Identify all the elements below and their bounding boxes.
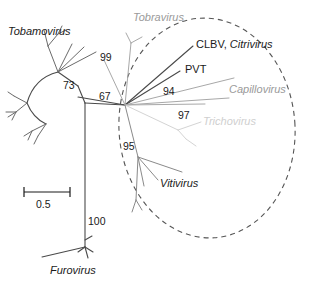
bootstrap-value-73: 73 bbox=[63, 80, 75, 91]
bootstrap-value-97: 97 bbox=[178, 110, 190, 121]
taxon-label-pvt: PVT bbox=[185, 64, 206, 75]
clbv-acronym: CLBV, bbox=[196, 38, 230, 50]
taxon-label-vitivirus: Vitivirus bbox=[160, 178, 198, 189]
bootstrap-value-100: 100 bbox=[88, 216, 106, 227]
taxon-label-furovirus: Furovirus bbox=[50, 265, 96, 276]
taxon-label-tobamovirus: Tobamovirus bbox=[8, 26, 71, 37]
taxon-label-tobravirus: Tobravirus bbox=[133, 12, 184, 23]
bootstrap-value-67: 67 bbox=[99, 91, 111, 102]
citrivirus-genus: Citrivirus bbox=[230, 38, 273, 50]
taxon-label-clbv-citrivirus: CLBV, Citrivirus bbox=[196, 39, 273, 50]
scale-bar bbox=[24, 187, 70, 197]
bootstrap-value-94: 94 bbox=[163, 86, 175, 97]
taxon-label-trichovirus: Trichovirus bbox=[203, 116, 256, 127]
scale-bar-label: 0.5 bbox=[36, 199, 51, 210]
tobamovirus-clade bbox=[6, 26, 96, 144]
taxon-label-capillovirus: Capillovirus bbox=[229, 84, 286, 95]
phylogenetic-tree-figure: Tobamovirus Tobravirus CLBV, Citrivirus … bbox=[0, 0, 311, 285]
bootstrap-value-99: 99 bbox=[100, 52, 112, 63]
vitivirus-clade bbox=[125, 105, 182, 212]
bootstrap-value-95: 95 bbox=[123, 141, 135, 152]
